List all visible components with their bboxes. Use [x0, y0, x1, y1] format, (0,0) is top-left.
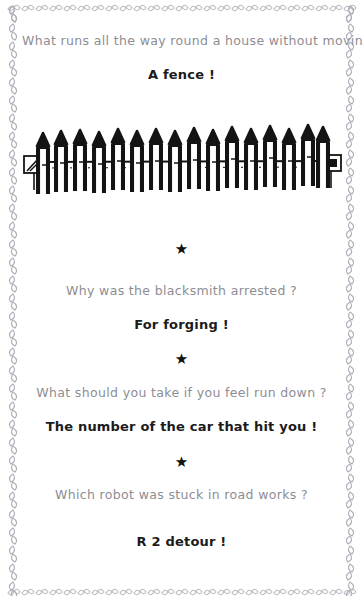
left-border-ornament: [6, 4, 20, 596]
star-separator-1: ★: [22, 242, 341, 257]
joke-answer-4: R 2 detour !: [22, 534, 341, 549]
picket-fence-illustration: [18, 118, 348, 200]
star-separator-3: ★: [22, 455, 341, 470]
star-separator-2: ★: [22, 352, 341, 367]
joke-answer-3: The number of the car that hit you !: [22, 419, 341, 434]
joke-answer-1: A fence !: [22, 67, 341, 82]
joke-question-3: What should you take if you feel run dow…: [22, 385, 341, 400]
joke-page: What runs all the way round a house with…: [0, 0, 363, 600]
joke-answer-2: For forging !: [22, 317, 341, 332]
joke-question-2: Why was the blacksmith arrested ?: [22, 283, 341, 298]
fence-pickets: [36, 124, 330, 194]
right-border-ornament: [343, 4, 357, 596]
joke-question-1: What runs all the way round a house with…: [22, 33, 341, 48]
joke-content: What runs all the way round a house with…: [22, 0, 341, 600]
joke-question-4: Which robot was stuck in road works ?: [22, 487, 341, 502]
